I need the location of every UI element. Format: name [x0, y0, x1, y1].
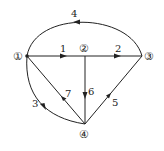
edge-2-label: 2	[115, 43, 121, 54]
edge-1-label: 1	[60, 43, 66, 54]
directed-graph-diagram: ① ② ③ ④ 1 2 3 4 5 6 7	[0, 0, 164, 151]
edge-7-label: 7	[65, 88, 71, 99]
edge-1-arrow-icon	[60, 54, 67, 59]
edge-4-label: 4	[71, 8, 77, 19]
node-4-label: ④	[79, 128, 89, 141]
edge-6-label: 6	[88, 86, 94, 97]
edge-5-label: 5	[112, 97, 118, 108]
edge-4-arrow-icon	[73, 20, 80, 25]
node-3-label: ③	[144, 50, 154, 63]
edge-6-arrow-icon	[83, 92, 88, 99]
node-1-dot	[25, 54, 29, 58]
edge-3-arrow-icon	[40, 103, 46, 110]
node-1-label: ①	[13, 50, 23, 63]
edge-3-label: 3	[32, 98, 38, 109]
edge-7	[27, 56, 85, 124]
node-2-label: ②	[79, 42, 89, 55]
edge-2-arrow-icon	[114, 54, 121, 59]
